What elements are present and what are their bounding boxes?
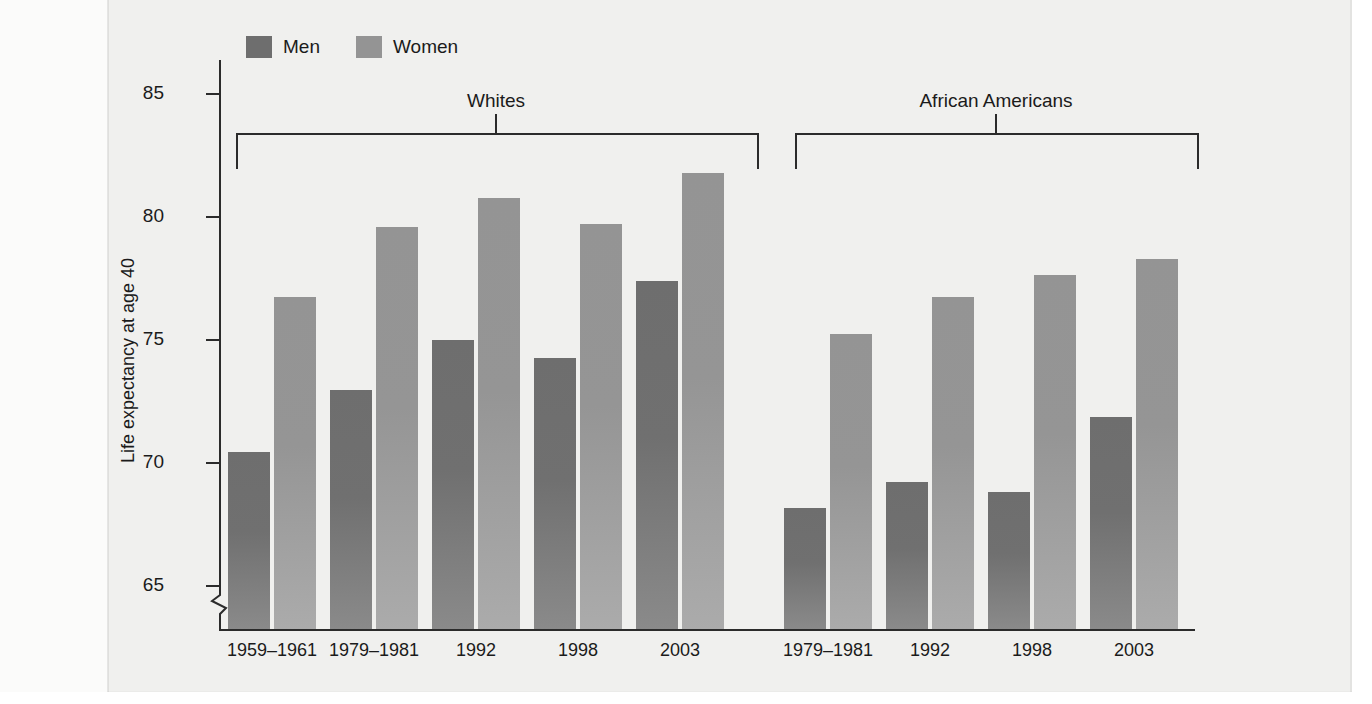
y-tick-70 [206, 462, 219, 464]
bar-women-0-0 [274, 297, 316, 629]
y-tick-65 [206, 585, 219, 587]
x-tick-label-w2: 1992 [456, 640, 496, 661]
legend-item-men: Men [246, 36, 320, 58]
bar-men-0-0 [228, 452, 270, 629]
bar-women-0-3 [580, 224, 622, 629]
y-tick-75 [206, 339, 219, 341]
x-tick-label-w3: 1998 [558, 640, 598, 661]
x-axis-line [219, 629, 1195, 631]
bar-women-1-3 [1136, 259, 1178, 629]
y-axis-title: Life expectancy at age 40 [118, 211, 139, 511]
group-bracket-label-african-americans: African Americans [919, 90, 1072, 112]
y-tick-80 [206, 216, 219, 218]
bar-women-0-4 [682, 173, 724, 629]
group-bracket-whites-stem [495, 114, 497, 133]
bar-women-1-2 [1034, 275, 1076, 629]
legend-swatch-women-icon [356, 36, 382, 58]
bar-men-0-2 [432, 340, 474, 629]
legend-swatch-men-icon [246, 36, 272, 58]
x-tick-label-a3: 2003 [1114, 640, 1154, 661]
bar-men-1-3 [1090, 417, 1132, 629]
x-tick-label-a0: 1979–1981 [783, 640, 873, 661]
bar-men-0-3 [534, 358, 576, 629]
bar-women-0-1 [376, 227, 418, 629]
bar-men-1-1 [886, 482, 928, 629]
y-tick-label-65: 65 [104, 574, 164, 596]
group-bracket-african-americans-stem [995, 114, 997, 133]
legend-item-women: Women [356, 36, 458, 58]
y-tick-label-85: 85 [104, 82, 164, 104]
group-bracket-whites [236, 133, 759, 169]
bar-women-1-1 [932, 297, 974, 629]
x-tick-label-a2: 1998 [1012, 640, 1052, 661]
figure-page: Men Women 85 80 75 70 65 Life expectancy… [0, 0, 1372, 704]
y-tick-85 [206, 93, 219, 95]
bar-men-1-0 [784, 508, 826, 629]
group-bracket-african-americans [795, 133, 1199, 169]
chart-legend: Men Women [246, 36, 458, 58]
bar-chart: Men Women 85 80 75 70 65 Life expectancy… [0, 0, 1372, 704]
bar-men-0-1 [330, 390, 372, 629]
x-tick-label-a1: 1992 [910, 640, 950, 661]
y-axis-line [219, 60, 221, 590]
bar-women-1-0 [830, 334, 872, 629]
legend-label-men: Men [283, 36, 320, 58]
group-bracket-label-whites: Whites [467, 90, 525, 112]
x-tick-label-w0: 1959–1961 [227, 640, 317, 661]
bar-men-1-2 [988, 492, 1030, 629]
bar-men-0-4 [636, 281, 678, 629]
legend-label-women: Women [393, 36, 458, 58]
x-tick-label-w1: 1979–1981 [329, 640, 419, 661]
x-tick-label-w4: 2003 [660, 640, 700, 661]
bar-women-0-2 [478, 198, 520, 629]
